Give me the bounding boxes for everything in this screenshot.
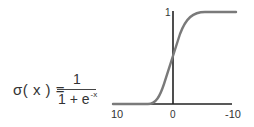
y-tick-label-one: 1 — [165, 7, 171, 18]
sigmoid-plot — [0, 0, 254, 127]
sigmoid-curve — [113, 12, 236, 104]
x-tick-label-left: 10 — [111, 108, 123, 120]
x-tick-label-zero: 0 — [170, 109, 176, 120]
x-tick-label-right: -10 — [225, 108, 241, 120]
